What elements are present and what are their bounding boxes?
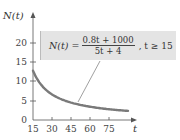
- formula-numerator: 0.8t + 1000: [82, 35, 135, 46]
- x-tick-label: 60: [84, 124, 96, 134]
- y-axis-arrow-icon: [31, 12, 36, 18]
- y-tick-label: 15: [16, 57, 28, 67]
- formula-condition: , t ≥ 15: [139, 41, 173, 51]
- annotation-leader-line: [78, 61, 100, 102]
- x-ticks: [52, 117, 109, 120]
- x-tick-label: 45: [65, 124, 77, 134]
- y-tick-label: 10: [16, 76, 28, 86]
- formula-fraction: 0.8t + 1000 5t + 4: [82, 35, 135, 56]
- x-axis-title: t: [133, 123, 138, 134]
- x-axis-arrow-icon: [131, 118, 137, 123]
- x-tick-label: 30: [46, 124, 58, 134]
- formula-denominator: 5t + 4: [95, 46, 122, 56]
- x-tick-label: 15: [27, 124, 39, 134]
- y-axis-title: N(t): [2, 10, 24, 21]
- y-tick-label: 20: [16, 38, 28, 48]
- formula-lhs: N(t) =: [49, 40, 80, 51]
- chart-canvas: 0 5 10 15 20 15 30 45 60 75 N(t) t: [0, 0, 180, 140]
- formula-box: N(t) = 0.8t + 1000 5t + 4 , t ≥ 15: [40, 31, 176, 60]
- x-tick-label: 75: [103, 124, 115, 134]
- y-tick-label: 5: [21, 96, 27, 106]
- data-curve: [33, 71, 128, 111]
